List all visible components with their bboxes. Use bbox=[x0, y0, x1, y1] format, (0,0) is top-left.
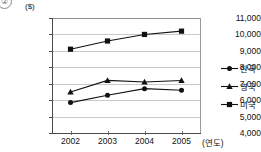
legend-label: 영국 bbox=[240, 80, 256, 92]
triangle-marker-icon bbox=[178, 77, 184, 83]
triangle-marker-icon bbox=[67, 89, 73, 95]
y-axis-unit-label: ($) bbox=[25, 2, 35, 11]
x-tick-mark bbox=[71, 131, 72, 135]
series-line bbox=[71, 80, 182, 92]
gridline bbox=[52, 34, 201, 35]
y-tick-label: 9,000 bbox=[215, 46, 261, 56]
y-tick-label: 10,000 bbox=[215, 29, 261, 39]
circle-marker-icon bbox=[142, 86, 147, 91]
chart-legend: 한국영국미국 bbox=[221, 60, 261, 114]
x-axis-line bbox=[52, 133, 201, 134]
gridline bbox=[52, 67, 201, 68]
x-tick-label: 2005 bbox=[162, 136, 202, 146]
circle-marker-icon bbox=[221, 64, 238, 73]
gridline bbox=[52, 18, 201, 19]
triangle-marker-icon bbox=[104, 77, 110, 83]
legend-item-미국[interactable]: 미국 bbox=[221, 96, 261, 114]
square-marker-icon bbox=[105, 38, 110, 43]
gridline bbox=[52, 51, 201, 52]
chart-screenshot: ② ($) 4,0005,0006,0007,0008,0009,00010,0… bbox=[0, 0, 261, 152]
x-tick-label: 2003 bbox=[88, 136, 128, 146]
x-tick-label: 2002 bbox=[51, 136, 91, 146]
question-number-mark: ② bbox=[0, 0, 12, 9]
legend-item-한국[interactable]: 한국 bbox=[221, 60, 261, 78]
circle-marker-icon bbox=[179, 88, 184, 93]
circle-marker-icon bbox=[227, 66, 232, 71]
gridline bbox=[52, 84, 201, 85]
x-tick-label: 2004 bbox=[125, 136, 165, 146]
y-tick-label: 11,000 bbox=[215, 13, 261, 23]
gridline bbox=[52, 100, 201, 101]
square-marker-icon bbox=[179, 29, 184, 34]
circle-marker-icon bbox=[105, 93, 110, 98]
x-tick-mark bbox=[145, 131, 146, 135]
clipped-title bbox=[70, 0, 220, 2]
legend-label: 미국 bbox=[240, 98, 256, 110]
y-axis-line bbox=[52, 18, 53, 134]
triangle-marker-icon bbox=[221, 82, 238, 91]
legend-item-영국[interactable]: 영국 bbox=[221, 78, 261, 96]
x-tick-mark bbox=[108, 131, 109, 135]
plot-right-edge bbox=[200, 18, 201, 134]
legend-label: 한국 bbox=[240, 62, 256, 74]
x-tick-mark bbox=[182, 131, 183, 135]
x-axis-unit-label: (연도) bbox=[202, 136, 224, 148]
gridline bbox=[52, 117, 201, 118]
square-marker-icon bbox=[221, 100, 238, 109]
square-marker-icon bbox=[227, 102, 232, 107]
